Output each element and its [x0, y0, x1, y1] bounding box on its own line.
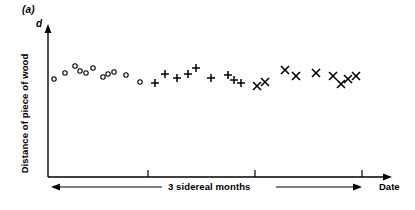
span-arrow-left-head-icon: [51, 184, 60, 191]
x-axis-label: Date: [379, 181, 400, 192]
data-point-circle: [73, 64, 77, 68]
data-point-circle: [63, 71, 67, 75]
span-arrow-right-head-icon: [353, 184, 362, 191]
data-point-cross: [344, 75, 352, 83]
data-point-plus: [184, 70, 192, 78]
data-point-circle: [112, 70, 116, 74]
data-point-cross: [253, 82, 261, 90]
data-point-cross: [281, 66, 289, 74]
data-point-cross: [312, 69, 320, 77]
data-point-plus: [224, 71, 232, 79]
x-axis-arrowhead-icon: [383, 174, 392, 181]
data-point-cross: [261, 78, 269, 86]
data-point-plus: [151, 79, 159, 87]
data-point-circle: [124, 73, 128, 77]
data-point-plus: [230, 76, 238, 84]
data-point-circle: [78, 69, 82, 73]
data-point-plus: [192, 64, 200, 72]
scatter-plot-canvas: [0, 0, 415, 210]
data-point-circle: [84, 71, 88, 75]
data-point-circle: [138, 80, 142, 84]
data-point-cross: [337, 80, 345, 88]
data-point-circle: [91, 66, 95, 70]
data-point-cross: [329, 72, 337, 80]
y-axis-arrowhead-icon: [45, 24, 52, 33]
data-point-cross: [352, 72, 360, 80]
data-point-plus: [237, 79, 245, 87]
figure-panel-a: (a) d Distance of piece of wood 3 sidere…: [0, 0, 415, 210]
data-point-circle: [106, 72, 110, 76]
data-point-plus: [173, 74, 181, 82]
data-point-circle: [52, 77, 56, 81]
data-markers-layer: [52, 64, 360, 90]
x-span-label: 3 sidereal months: [168, 181, 250, 192]
axes-group: [45, 24, 392, 180]
data-point-plus: [207, 74, 215, 82]
data-point-plus: [161, 70, 169, 78]
data-point-cross: [292, 72, 300, 80]
data-point-circle: [101, 75, 105, 79]
